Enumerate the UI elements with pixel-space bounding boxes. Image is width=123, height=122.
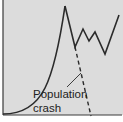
annotation-label-line2: crash	[33, 102, 61, 114]
population-crash-chart: Population crash	[0, 0, 123, 122]
annotation-label-line1: Population	[33, 88, 87, 100]
